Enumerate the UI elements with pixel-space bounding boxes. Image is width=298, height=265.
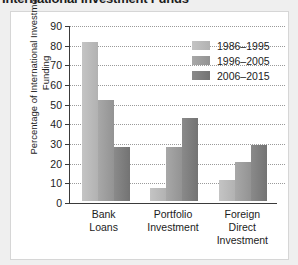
y-tick	[65, 183, 70, 184]
x-axis-label-line: Direct	[208, 221, 276, 234]
y-tick	[65, 144, 70, 145]
y-tick	[65, 65, 70, 66]
bar	[182, 118, 198, 202]
x-axis-label-line: Foreign	[208, 208, 276, 221]
y-tick	[65, 46, 70, 47]
y-tick-label: 10	[50, 177, 62, 189]
bar	[82, 42, 98, 202]
legend-item: 2006–2015	[192, 68, 270, 83]
y-tick-label: 0	[56, 197, 62, 209]
y-tick-label: 20	[50, 158, 62, 170]
legend-swatch	[192, 56, 210, 65]
bar	[166, 147, 182, 202]
y-tick-label: 80	[50, 40, 62, 52]
y-tick	[65, 105, 70, 106]
legend-label: 2006–2015	[217, 70, 270, 82]
bar	[219, 180, 235, 201]
bar-group	[82, 26, 130, 201]
y-tick	[65, 85, 70, 86]
x-axis-label: ForeignDirectInvestment	[208, 208, 276, 247]
legend-label: 1986–1995	[217, 40, 270, 52]
y-tick	[65, 124, 70, 125]
x-axis-label: PortfolioInvestment	[139, 208, 207, 247]
chart-legend: 1986–19951996–20052006–2015	[192, 38, 270, 83]
x-axis-label: BankLoans	[70, 208, 138, 247]
y-tick-label: 30	[50, 138, 62, 150]
y-tick	[65, 203, 70, 204]
x-axis-label-line: Investment	[208, 234, 276, 247]
y-tick	[65, 164, 70, 165]
bar	[114, 147, 130, 202]
y-tick-label: 50	[50, 99, 62, 111]
y-tick	[65, 26, 70, 27]
chart-panel: Percentage of International Investment F…	[10, 11, 289, 260]
y-tick-label: 70	[50, 59, 62, 71]
bar	[98, 100, 114, 201]
x-axis-label-line: Loans	[70, 221, 138, 234]
legend-label: 1996–2005	[217, 55, 270, 67]
bar	[150, 188, 166, 202]
y-tick-label: 90	[50, 20, 62, 32]
legend-swatch	[192, 71, 210, 80]
x-axis-labels: BankLoansPortfolioInvestmentForeignDirec…	[69, 208, 277, 247]
bar	[251, 145, 267, 202]
y-tick-label: 40	[50, 118, 62, 130]
legend-item: 1996–2005	[192, 53, 270, 68]
legend-item: 1986–1995	[192, 38, 270, 53]
x-axis-label-line: Bank	[70, 208, 138, 221]
x-axis-label-line: Investment	[139, 221, 207, 234]
bar	[235, 162, 251, 201]
x-axis-label-line: Portfolio	[139, 208, 207, 221]
legend-swatch	[192, 41, 210, 50]
y-tick-label: 60	[50, 79, 62, 91]
